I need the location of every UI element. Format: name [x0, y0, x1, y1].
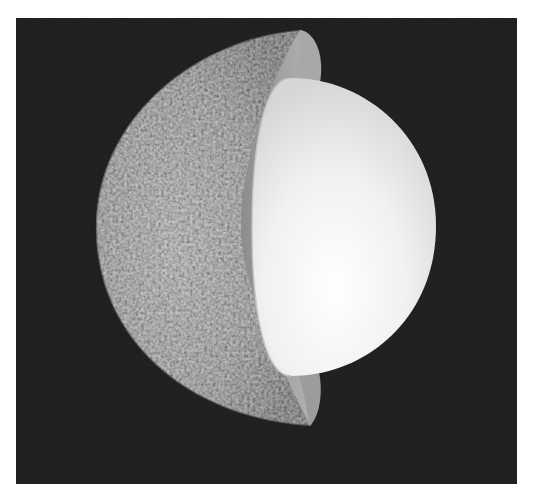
mercury-cutaway-illustration — [16, 18, 517, 484]
image-frame — [16, 18, 517, 484]
